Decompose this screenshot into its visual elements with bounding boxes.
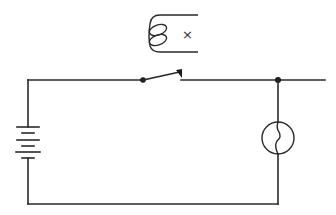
switch-lever [143,72,180,80]
coil-marker: × [182,27,193,42]
coil: × [148,15,198,52]
switch-contact [176,69,182,78]
battery [16,127,40,158]
switch [140,69,182,83]
circuit-diagram: × [0,0,336,215]
lamp-filament [276,122,280,154]
lamp-branch [262,80,294,204]
lamp [262,122,294,154]
